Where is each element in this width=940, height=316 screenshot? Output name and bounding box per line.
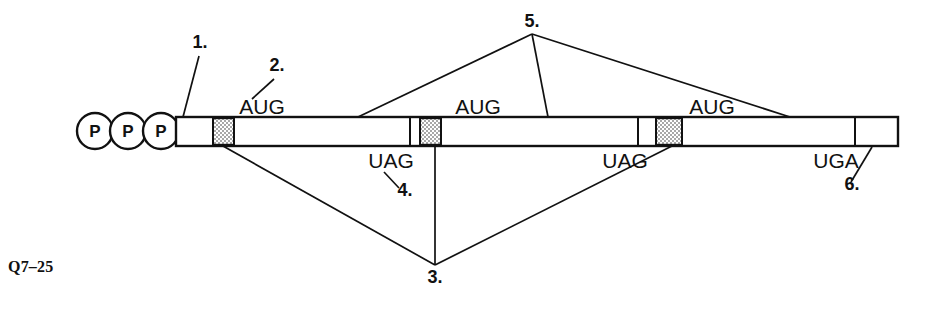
start-codon-label-1: AUG: [239, 95, 285, 118]
callout-label-4: 4.: [397, 180, 412, 200]
leader-line-callout-3c: [435, 146, 672, 265]
leader-line-callout-1: [183, 56, 199, 117]
mrna-bar-outline: [176, 117, 898, 146]
callout-label-2: 2.: [269, 55, 284, 75]
stipple-box-3: [656, 118, 682, 145]
leader-lines: [183, 34, 872, 265]
stop-codon-label-1: UAG: [368, 149, 414, 172]
mrna-backbone: [176, 117, 898, 146]
callout-labels: 1. 2. 3. 4. 5. 6.: [192, 11, 859, 287]
cap-phosphate-group: P P P: [77, 113, 179, 149]
callout-label-1: 1.: [192, 32, 207, 52]
stipple-box-2: [420, 118, 441, 145]
stop-codon-labels: UAG UAG UGA: [368, 149, 859, 172]
callout-label-3: 3.: [427, 267, 442, 287]
mrna-diagram: P P P AUG AUG AUG UAG UAG UGA: [0, 0, 940, 316]
callout-label-6: 6.: [844, 174, 859, 194]
stipple-box-1: [213, 118, 234, 145]
leader-line-callout-5b: [532, 34, 548, 117]
phosphate-label-1: P: [89, 122, 100, 141]
phosphate-label-2: P: [122, 122, 133, 141]
figure-caption: Q7–25: [8, 258, 53, 276]
callout-label-5: 5.: [524, 11, 539, 31]
start-codon-label-2: AUG: [455, 95, 501, 118]
leader-line-callout-5a: [358, 34, 532, 117]
start-codon-label-3: AUG: [689, 95, 735, 118]
phosphate-label-3: P: [155, 122, 166, 141]
stop-codon-label-3: UGA: [813, 149, 859, 172]
stop-codon-label-2: UAG: [602, 149, 648, 172]
start-codon-labels: AUG AUG AUG: [239, 95, 735, 118]
leader-line-callout-5c: [532, 34, 790, 117]
figure-root: P P P AUG AUG AUG UAG UAG UGA: [0, 0, 940, 316]
